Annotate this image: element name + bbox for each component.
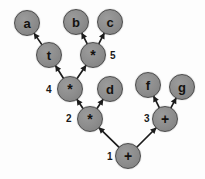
tree-node-label: * bbox=[90, 48, 95, 62]
tree-edge bbox=[99, 33, 105, 45]
node-order-label-5: 5 bbox=[110, 51, 116, 61]
tree-node-label: a bbox=[23, 16, 30, 29]
tree-node-label: + bbox=[161, 112, 169, 126]
tree-node-p1[interactable]: + bbox=[115, 143, 141, 169]
tree-node-t[interactable]: t bbox=[36, 42, 62, 68]
tree-node-m4[interactable]: * bbox=[57, 76, 83, 102]
tree-node-a[interactable]: a bbox=[14, 10, 40, 36]
tree-node-m5[interactable]: * bbox=[80, 42, 106, 68]
tree-node-label: b bbox=[72, 15, 80, 28]
tree-node-label: f bbox=[146, 78, 150, 91]
tree-edge bbox=[136, 127, 156, 147]
tree-node-label: * bbox=[87, 112, 92, 126]
tree-node-label: c bbox=[106, 15, 113, 28]
tree-node-b[interactable]: b bbox=[63, 9, 89, 35]
node-order-label-3: 3 bbox=[144, 114, 150, 124]
tree-node-label: g bbox=[178, 80, 186, 93]
tree-edge bbox=[99, 127, 120, 147]
tree-edge bbox=[55, 65, 63, 79]
tree-node-f[interactable]: f bbox=[135, 72, 161, 98]
tree-node-c[interactable]: c bbox=[97, 9, 123, 35]
tree-node-p3[interactable]: + bbox=[152, 106, 178, 132]
tree-node-g[interactable]: g bbox=[169, 74, 195, 100]
tree-node-m2[interactable]: * bbox=[77, 106, 103, 132]
node-order-label-2: 2 bbox=[66, 114, 72, 124]
tree-node-label: d bbox=[106, 82, 114, 95]
tree-node-d[interactable]: d bbox=[97, 76, 123, 102]
node-order-label-4: 4 bbox=[46, 85, 52, 95]
tree-node-label: * bbox=[67, 82, 72, 96]
tree-node-label: + bbox=[124, 149, 132, 163]
expression-tree-diagram: abct**dfg*++12345 bbox=[0, 0, 205, 179]
node-order-label-1: 1 bbox=[107, 152, 113, 162]
tree-edge bbox=[77, 65, 87, 79]
tree-node-label: t bbox=[47, 48, 51, 61]
